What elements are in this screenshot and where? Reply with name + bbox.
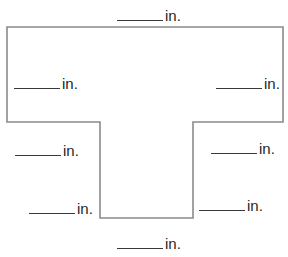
dimension-label-left-lower: in. bbox=[29, 198, 93, 216]
unit-text: in. bbox=[165, 8, 181, 23]
answer-blank-left-middle[interactable] bbox=[15, 155, 61, 156]
dimension-label-right-middle: in. bbox=[211, 138, 275, 156]
dimension-label-right-upper: in. bbox=[216, 73, 280, 91]
dimension-label-bottom: in. bbox=[117, 233, 181, 251]
answer-blank-right-middle[interactable] bbox=[211, 153, 257, 154]
unit-text: in. bbox=[264, 76, 280, 91]
unit-text: in. bbox=[63, 143, 79, 158]
t-shape-figure bbox=[0, 0, 288, 257]
answer-blank-top[interactable] bbox=[117, 20, 163, 21]
answer-blank-left-upper[interactable] bbox=[14, 88, 60, 89]
answer-blank-left-lower[interactable] bbox=[29, 213, 75, 214]
answer-blank-bottom[interactable] bbox=[117, 248, 163, 249]
unit-text: in. bbox=[165, 236, 181, 251]
unit-text: in. bbox=[259, 141, 275, 156]
unit-text: in. bbox=[62, 76, 78, 91]
dimension-label-left-upper: in. bbox=[14, 73, 78, 91]
dimension-label-left-middle: in. bbox=[15, 140, 79, 158]
unit-text: in. bbox=[77, 201, 93, 216]
dimension-label-top: in. bbox=[117, 5, 181, 23]
answer-blank-right-upper[interactable] bbox=[216, 88, 262, 89]
dimension-label-right-lower: in. bbox=[199, 195, 263, 213]
t-shape-outline bbox=[7, 27, 283, 218]
unit-text: in. bbox=[247, 198, 263, 213]
answer-blank-right-lower[interactable] bbox=[199, 210, 245, 211]
